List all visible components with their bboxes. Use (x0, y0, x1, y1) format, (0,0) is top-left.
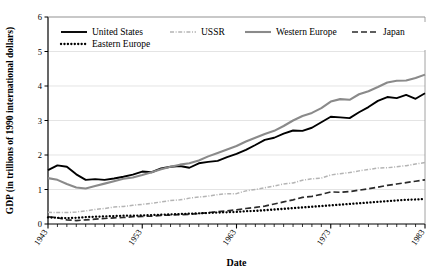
legend-label-eastern-europe: Eastern Europe (92, 39, 150, 49)
series-line-ussr (48, 163, 425, 213)
series-line-eastern-europe (48, 199, 425, 218)
x-axis-title: Date (227, 257, 248, 268)
series-line-western-europe (48, 75, 425, 189)
legend-label-western-europe: Western Europe (276, 27, 337, 37)
y-tick-label: 5 (38, 47, 42, 57)
data-series-group (48, 75, 425, 221)
series-line-united-states (48, 93, 425, 180)
y-axis-title: GDP (in trillions of 1990 international … (5, 27, 16, 214)
y-tick-label: 1 (38, 185, 42, 195)
x-tick-label: 1963 (220, 227, 238, 247)
y-tick-label: 2 (38, 150, 42, 160)
chart-canvas: 0123456 19431953196319731983 United Stat… (0, 0, 437, 271)
y-tick-label: 4 (38, 81, 43, 91)
legend-label-united-states: United States (92, 27, 143, 37)
y-tick-label: 6 (38, 12, 42, 22)
y-tick-label: 3 (38, 116, 42, 126)
gdp-line-chart: 0123456 19431953196319731983 United Stat… (0, 0, 437, 271)
x-tick-label: 1973 (314, 227, 332, 247)
x-tick-labels: 19431953196319731983 (32, 227, 427, 247)
legend-label-ussr: USSR (201, 27, 225, 37)
y-tick-labels: 0123456 (38, 12, 43, 229)
legend-label-japan: Japan (383, 27, 405, 37)
x-tick-label: 1953 (126, 227, 144, 247)
x-tick-label: 1943 (32, 227, 50, 247)
x-tick-label: 1983 (409, 227, 427, 247)
chart-legend: United StatesUSSRWestern EuropeJapanEast… (55, 22, 427, 50)
series-line-japan (48, 180, 425, 221)
